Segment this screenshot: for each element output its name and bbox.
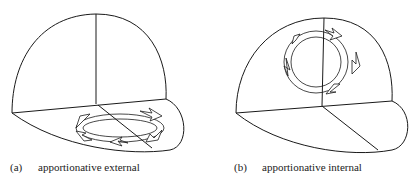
caption-b: (b)apportionative internal — [234, 161, 362, 173]
caption-b-text: apportionative internal — [262, 161, 362, 173]
crown-base-line — [12, 99, 166, 113]
diagram-canvas — [0, 0, 419, 183]
crown-base-line — [236, 101, 392, 113]
caption-a-label: (a) — [10, 161, 38, 173]
brim-outline — [236, 101, 408, 153]
caption-b-label: (b) — [234, 161, 262, 173]
brim-seam — [322, 106, 378, 150]
rotation-arrows-brim — [76, 108, 164, 146]
brim-outline — [12, 99, 184, 152]
caption-a: (a)apportionative external — [10, 161, 140, 173]
cap-crown-outline — [12, 14, 166, 113]
panel-a-cap — [12, 14, 184, 152]
cap-crown-outline — [236, 18, 392, 113]
panel-b-cap — [236, 18, 408, 153]
caption-a-text: apportionative external — [38, 161, 140, 173]
